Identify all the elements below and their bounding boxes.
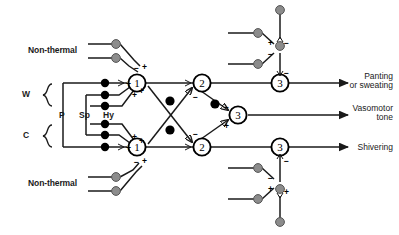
stage1-top-link-hy bbox=[105, 90, 134, 106]
sign-s3m-lower-plus: + bbox=[224, 121, 229, 131]
node-stage3-middle-label: 3 bbox=[235, 109, 241, 121]
sign-botmod-plus: + bbox=[268, 184, 273, 194]
node-stage2-top[interactable]: 2 bbox=[193, 74, 210, 91]
sign-s1b-nt-minus: − bbox=[134, 157, 139, 167]
sign-botvert-upper: − bbox=[284, 156, 289, 166]
receptor-dot-warm-p bbox=[101, 79, 109, 87]
diagram-canvas: 1 1 2 2 3 3 3 bbox=[0, 0, 399, 235]
bottom-mod-source-dot[interactable] bbox=[276, 218, 285, 227]
sign-botmod-minus: − bbox=[268, 173, 273, 183]
label-output-panting: Panting or sweating bbox=[283, 72, 393, 90]
receptor-dot-cold-p bbox=[101, 143, 109, 151]
sign-s1t-nt-plus: + bbox=[142, 62, 147, 72]
node-stage3-middle[interactable]: 3 bbox=[229, 106, 246, 123]
label-output-vasomotor: Vasomotor tone bbox=[283, 104, 393, 122]
inline-arrowheads bbox=[118, 80, 191, 150]
label-site-p: P bbox=[59, 111, 65, 120]
cross-inhibition-dot-mid bbox=[210, 99, 219, 108]
sign-botvert-lower: + bbox=[284, 187, 289, 197]
warm-brace bbox=[43, 84, 52, 106]
bottom-mod-dot-2[interactable] bbox=[254, 195, 263, 204]
sign-topvert-upper: − bbox=[284, 38, 289, 48]
label-warm-receptors: W bbox=[22, 90, 30, 99]
label-nonthermal-bottom: Non-thermal bbox=[28, 179, 77, 188]
label-cold-receptors: C bbox=[23, 131, 29, 140]
top-mod-source-dot[interactable] bbox=[276, 6, 285, 15]
sign-s1t-sp-plus: + bbox=[132, 90, 137, 100]
sign-topmod-plus: + bbox=[268, 38, 273, 48]
sign-s1b-p-plus: + bbox=[126, 143, 131, 153]
label-output-shivering: Shivering bbox=[283, 143, 393, 152]
cross-inhibition-dot-lower bbox=[165, 125, 174, 134]
receptor-dot-cold-sp bbox=[101, 131, 109, 139]
sign-s1t-hy-plus: + bbox=[139, 86, 144, 96]
sign-s1b-nt-plus: + bbox=[142, 156, 147, 166]
receptor-dot-cold-hy bbox=[101, 120, 109, 128]
label-site-sp: Sp bbox=[79, 111, 90, 120]
node-stage2-bottom[interactable]: 2 bbox=[193, 138, 210, 155]
sign-s1b-hy-plus: + bbox=[139, 136, 144, 146]
sign-s1t-p-plus: + bbox=[126, 79, 131, 89]
cold-brace bbox=[43, 125, 52, 147]
cross-coupling-network bbox=[148, 86, 228, 144]
sign-s1t-nt-minus: − bbox=[134, 63, 139, 73]
label-output-shivering-line1: Shivering bbox=[283, 143, 393, 152]
node-stage2-bottom-label: 2 bbox=[199, 141, 205, 153]
sign-s3m-upper-minus: − bbox=[224, 102, 229, 112]
label-site-hy: Hy bbox=[103, 111, 114, 120]
top-mod-dot-1[interactable] bbox=[254, 29, 263, 38]
sign-topmod-minus: − bbox=[268, 49, 273, 59]
nonthermal-top-dot-1[interactable] bbox=[112, 40, 121, 49]
bottom-mod-dot-1[interactable] bbox=[254, 164, 263, 173]
nonthermal-bottom-dot-1[interactable] bbox=[112, 173, 121, 182]
stage1-bottom-link-hy bbox=[105, 124, 134, 140]
cross-inhibition-dot-upper bbox=[165, 96, 174, 105]
top-mod-dot-2[interactable] bbox=[254, 60, 263, 69]
sign-s1b-sp-plus: + bbox=[132, 132, 137, 142]
receptor-dot-warm-sp bbox=[101, 91, 109, 99]
nonthermal-bottom-link-2 bbox=[120, 166, 142, 191]
node-stage2-top-label: 2 bbox=[199, 77, 205, 89]
modulator-dots bbox=[112, 6, 285, 227]
nonthermal-bottom-dot-2[interactable] bbox=[112, 187, 121, 196]
label-output-panting-line2: or sweating bbox=[283, 81, 393, 90]
sign-s2t-cross-minus: − bbox=[193, 92, 198, 102]
sign-s2b-cross-minus: − bbox=[193, 129, 198, 139]
label-nonthermal-top: Non-thermal bbox=[28, 46, 77, 55]
nonthermal-top-dot-2[interactable] bbox=[112, 54, 121, 63]
receptor-dot-warm-hy bbox=[101, 102, 109, 110]
label-output-vasomotor-line2: tone bbox=[283, 113, 393, 122]
